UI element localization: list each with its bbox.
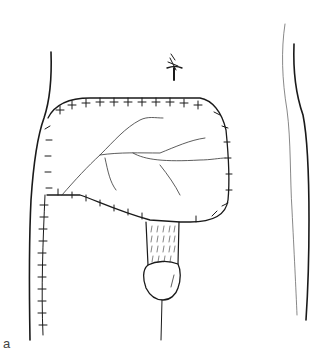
penile-glans xyxy=(144,261,181,300)
surgical-illustration xyxy=(0,0,330,362)
torso-outline-left xyxy=(29,52,51,340)
umbilicus-icon xyxy=(167,54,182,80)
tubed-graft xyxy=(146,222,179,265)
panel-label: a xyxy=(3,336,10,351)
raphe-line xyxy=(161,300,162,340)
flap-vessels xyxy=(62,118,225,196)
vertical-suture-line xyxy=(38,195,48,335)
torso-outline-right xyxy=(294,44,309,320)
